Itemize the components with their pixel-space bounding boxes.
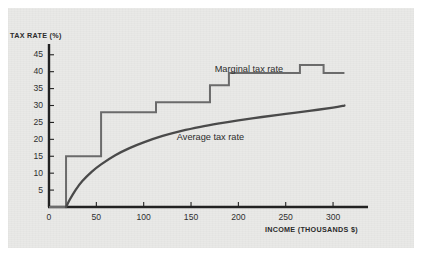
x-tick-label: 200 — [222, 212, 254, 222]
x-tick-label: 250 — [270, 212, 302, 222]
x-axis-title: INCOME (THOUSANDS $) — [265, 225, 358, 234]
y-tick-label: 45 — [17, 49, 43, 59]
y-tick-label: 10 — [17, 168, 43, 178]
marginal-tax-rate-label: Marginal tax rate — [215, 64, 283, 74]
x-tick-label: 150 — [175, 212, 207, 222]
y-tick-label: 30 — [17, 100, 43, 110]
average-tax-rate-label: Average tax rate — [177, 132, 244, 142]
y-tick-label: 20 — [17, 134, 43, 144]
x-tick-label: 0 — [33, 212, 65, 222]
x-tick-label: 50 — [80, 212, 112, 222]
y-tick-label: 40 — [17, 66, 43, 76]
y-tick-label: 15 — [17, 151, 43, 161]
x-tick-label: 300 — [317, 212, 349, 222]
y-tick-label: 25 — [17, 117, 43, 127]
y-tick-label: 35 — [17, 83, 43, 93]
chart-figure: TAX RATE (%) INCOME (THOUSANDS $) 510152… — [8, 8, 414, 248]
y-tick-label: 5 — [17, 185, 43, 195]
tax-rate-chart — [8, 8, 414, 248]
x-tick-label: 100 — [128, 212, 160, 222]
y-axis-title: TAX RATE (%) — [10, 31, 62, 40]
average-tax-rate-series — [66, 106, 344, 207]
chart-tick-marks — [49, 55, 333, 207]
